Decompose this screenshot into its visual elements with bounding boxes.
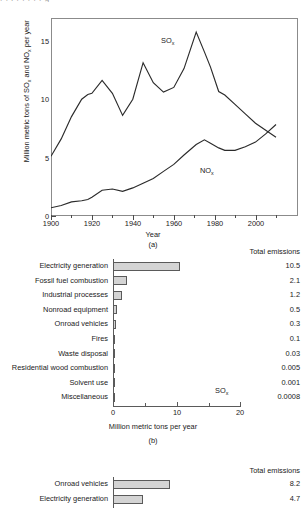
bar-category-label: Nonroad equipment (0, 303, 108, 317)
totals-header-b: Total emissions (249, 247, 300, 256)
x-tick-label-1940: 1940 (116, 219, 150, 228)
table-row: Solvent use 0.001 (0, 376, 306, 390)
bar-rect (113, 305, 117, 314)
bar-value: 0.3 (240, 317, 300, 331)
bx-tick-5 (145, 403, 146, 406)
x-tick-mark-1950 (153, 215, 154, 218)
x-axis-title: Year (0, 230, 306, 239)
x-tick-mark-1990 (235, 215, 236, 218)
series-label-nox-text: NO (200, 166, 211, 175)
y-axis-label-sub1: x (26, 80, 32, 83)
bar-category-label: Fossil fuel combustion (0, 274, 108, 288)
bar-category-label: Onroad vehicles (0, 317, 108, 331)
table-row: Fires 0.1 (0, 332, 306, 346)
bar-rect (113, 364, 115, 373)
x-tick-mark-1930 (112, 215, 113, 218)
bar-value: 1.2 (240, 288, 300, 302)
series-label-sox-text: SO (161, 36, 172, 45)
figure-page: . . l . . . . . g Million metric tons of… (0, 0, 306, 508)
bar-category-label: Miscellaneous (0, 390, 108, 404)
x-tick-mark-1970 (194, 215, 195, 218)
bar-value: 0.0008 (240, 390, 300, 404)
series-label-sox: SOx (161, 36, 174, 46)
table-row: Electricity generation 4.7 (0, 492, 306, 506)
bar-value: 0.1 (240, 332, 300, 346)
y-tick-label-10: 10 (25, 95, 49, 104)
bx-tick-20 (240, 402, 241, 407)
bar-rect (113, 378, 115, 387)
table-row: Nonroad equipment 0.5 (0, 303, 306, 317)
figure-c-bar-chart: Total emissions Onroad vehicles 8.2 Elec… (0, 462, 306, 508)
table-row: Waste disposal 0.03 (0, 347, 306, 361)
cropped-header-text: . . l . . . . . g (0, 0, 306, 2)
bx-label-10: 10 (165, 408, 189, 417)
line-series-group (51, 18, 299, 217)
table-row: Onroad vehicles 0.3 (0, 317, 306, 331)
bar-category-label: Solvent use (0, 376, 108, 390)
bx-tick-15 (209, 403, 210, 406)
bx-tick-10 (177, 402, 178, 407)
bar-rect (113, 320, 116, 329)
bar-value: 0.005 (240, 361, 300, 375)
y-tick-label-5: 5 (25, 154, 49, 163)
bx-tick-0 (113, 402, 114, 407)
x-tick-label-1980: 1980 (198, 219, 232, 228)
totals-header-c: Total emissions (249, 466, 300, 475)
table-row: Fossil fuel combustion 2.1 (0, 274, 306, 288)
bar-chart-b-axis-title: Million metric tons per year (0, 422, 306, 431)
table-row: Electricity generation 10.5 (0, 259, 306, 273)
x-tick-mark-2010 (276, 215, 277, 218)
bar-rect (113, 393, 115, 402)
bx-label-0: 0 (101, 408, 125, 417)
bar-value: 2.1 (240, 274, 300, 288)
x-tick-mark-1910 (71, 215, 72, 218)
bar-rect (113, 262, 180, 271)
bar-category-label: Residential wood combustion (0, 361, 108, 375)
bar-category-label: Industrial processes (0, 288, 108, 302)
bar-category-label: Electricity generation (0, 259, 108, 273)
figure-b-bar-chart: Total emissions Electricity generation 1… (0, 246, 306, 461)
table-row: Residential wood combustion 0.005 (0, 361, 306, 375)
x-tick-label-2000: 2000 (239, 219, 273, 228)
bar-rect (113, 480, 170, 489)
bar-value: 0.03 (240, 347, 300, 361)
bar-rect (113, 335, 115, 344)
y-tick-label-15: 15 (25, 37, 49, 46)
table-row: Miscellaneous 0.0008 (0, 390, 306, 404)
panel-letter-b: (b) (0, 436, 306, 445)
pollutant-label-sub: x (226, 390, 229, 396)
bar-value: 4.7 (240, 492, 300, 506)
x-tick-label-1920: 1920 (75, 219, 109, 228)
y-axis-label-sub2: x (26, 49, 32, 52)
nox-line (51, 125, 276, 208)
table-row: Onroad vehicles 8.2 (0, 477, 306, 491)
series-label-nox-sub: x (211, 170, 214, 176)
sox-line (51, 32, 276, 156)
series-label-sox-sub: x (172, 40, 175, 46)
y-axis-label-part2: and NO (22, 52, 31, 80)
bar-rect (113, 291, 122, 300)
x-tick-label-1960: 1960 (157, 219, 191, 228)
bar-category-label: Fires (0, 332, 108, 346)
bar-value: 0.001 (240, 376, 300, 390)
bar-rect (113, 495, 143, 504)
bar-category-label: Electricity generation (0, 492, 108, 506)
pollutant-label-text: SO (215, 386, 226, 395)
x-tick-label-1900: 1900 (34, 219, 68, 228)
bar-value: 8.2 (240, 477, 300, 491)
table-row: Industrial processes 1.2 (0, 288, 306, 302)
pollutant-label-sox-b: SOx (215, 386, 228, 396)
figure-a-line-chart: Million metric tons of SOx and NOx per y… (0, 8, 306, 240)
bar-category-label: Waste disposal (0, 347, 108, 361)
bar-rect (113, 276, 127, 285)
bar-rect (113, 349, 115, 358)
bar-value: 10.5 (240, 259, 300, 273)
series-label-nox: NOx (200, 166, 214, 176)
bar-category-label: Onroad vehicles (0, 477, 108, 491)
bx-label-20: 20 (228, 408, 252, 417)
bar-value: 0.5 (240, 303, 300, 317)
